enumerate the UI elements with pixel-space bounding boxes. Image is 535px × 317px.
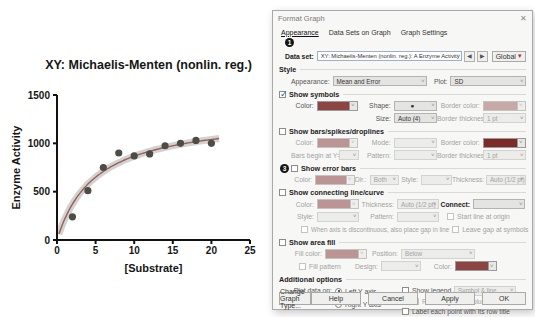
show-error-bars-header: Show error bars	[301, 164, 356, 173]
data-point	[208, 140, 215, 147]
symbol-border-thickness-label: Border thickness:	[437, 115, 483, 122]
dialog-titlebar[interactable]: Format Graph ✕	[273, 11, 532, 25]
svg-text:5: 5	[93, 245, 99, 256]
svg-text:1000: 1000	[28, 138, 51, 149]
line-thickness-label: Thickness:	[359, 201, 397, 208]
prev-dataset-button[interactable]: ◀	[464, 51, 475, 62]
style-header: Style	[279, 65, 296, 74]
ok-button[interactable]: OK	[482, 292, 526, 305]
show-bars-checkbox[interactable]	[279, 128, 286, 135]
data-point	[84, 187, 91, 194]
apply-button[interactable]: Apply	[425, 292, 475, 305]
close-icon[interactable]: ✕	[520, 14, 527, 23]
svg-text:Enzyme Activity: Enzyme Activity	[10, 125, 22, 210]
data-point	[115, 149, 122, 156]
show-area-fill-checkbox[interactable]	[279, 239, 286, 246]
line-pattern-label: Pattern:	[359, 213, 397, 220]
area-color-select	[455, 261, 497, 271]
bars-border-color-select	[483, 138, 526, 148]
fill-pattern-checkbox	[299, 263, 306, 270]
area-design-select	[381, 261, 421, 271]
error-color-select	[315, 175, 354, 185]
symbol-size-select[interactable]: Auto (4)	[394, 113, 437, 123]
symbol-border-thickness-select: 1 pt	[483, 113, 526, 123]
show-area-fill-header: Show area fill	[289, 238, 335, 247]
line-pattern-select	[397, 212, 439, 222]
format-graph-dialog: Format Graph ✕ Appearance Data Sets on G…	[272, 10, 533, 310]
show-symbols-checkbox[interactable]	[279, 91, 286, 98]
annotation-badge-2: 2	[461, 52, 463, 61]
tab-data-sets-on-graph[interactable]: Data Sets on Graph	[329, 29, 391, 36]
change-graph-type-button[interactable]: Change Graph Type...	[279, 292, 311, 305]
appearance-label: Appearance:	[291, 78, 333, 85]
area-fill-color-label: Fill color:	[291, 250, 325, 257]
error-dir-select: Both	[370, 175, 399, 185]
chevron-down-icon: ▾	[518, 52, 522, 60]
symbol-shape-select[interactable]: ●	[394, 101, 438, 111]
plot-select[interactable]: SD	[450, 76, 526, 86]
line-connect-select[interactable]	[473, 199, 525, 209]
error-dir-label: Dir.:	[355, 176, 370, 183]
show-bars-header: Show bars/spikes/droplines	[289, 127, 384, 136]
show-error-bars-checkbox[interactable]	[291, 165, 298, 172]
area-position-select: Below	[401, 249, 475, 259]
show-line-header: Show connecting line/curve	[289, 188, 384, 197]
data-point	[146, 150, 153, 157]
error-thickness-select: Auto (1/2 pt)	[486, 175, 526, 185]
bars-pattern-select	[394, 150, 437, 160]
svg-text:15: 15	[167, 245, 179, 256]
global-button[interactable]: Global ▾	[492, 51, 526, 62]
symbol-border-color-select	[483, 101, 526, 111]
symbol-color-select[interactable]	[317, 101, 358, 111]
screenshot-root: 0500100015000510152025XY: Michaelis-Ment…	[0, 0, 535, 317]
line-thickness-select: Auto (1/2 pt)	[397, 199, 439, 209]
svg-text:[Substrate]: [Substrate]	[124, 262, 182, 274]
bars-border-color-label: Border color:	[437, 139, 482, 146]
start-line-origin-label: Start line at origin	[457, 213, 513, 220]
start-line-origin-checkbox	[447, 213, 454, 220]
show-line-checkbox[interactable]	[279, 189, 286, 196]
tab-appearance[interactable]: Appearance	[281, 29, 319, 36]
label-points-label: Label each point with its row title	[412, 308, 513, 315]
error-style-select	[421, 175, 452, 185]
label-points-checkbox[interactable]	[402, 308, 409, 315]
error-color-label: Color:	[291, 176, 315, 183]
gap-in-line-label: When axis is discontinuous, also place g…	[311, 226, 452, 233]
dialog-tabs: Appearance Data Sets on Graph Graph Sett…	[273, 25, 532, 38]
help-button[interactable]: Help	[311, 292, 361, 305]
line-style-label: Style:	[291, 213, 317, 220]
svg-text:XY: Michaelis-Menten (nonlin.: XY: Michaelis-Menten (nonlin. reg.)	[45, 58, 252, 72]
data-point	[177, 140, 184, 147]
dialog-content: Data set: XY: Michaelis-Menten (nonlin. …	[273, 38, 532, 317]
tab-graph-settings[interactable]: Graph Settings	[401, 29, 448, 36]
error-thickness-label: Thickness:	[452, 176, 486, 183]
svg-text:10: 10	[129, 245, 141, 256]
confidence-band	[59, 139, 219, 235]
data-point	[161, 142, 168, 149]
annotation-badge-3: 3	[280, 164, 289, 173]
symbol-color-label: Color:	[291, 102, 317, 109]
line-style-select	[317, 212, 359, 222]
symbol-shape-label: Shape:	[358, 102, 394, 109]
data-point	[131, 152, 138, 159]
bars-pattern-label: Pattern:	[359, 152, 394, 159]
additional-options-header: Additional options	[279, 275, 342, 284]
line-color-select	[317, 199, 359, 209]
svg-text:500: 500	[33, 186, 50, 197]
next-dataset-button[interactable]: ▶	[477, 51, 488, 62]
dataset-select[interactable]: XY: Michaelis-Menten (nonlin. reg.): A E…	[317, 51, 463, 61]
data-point	[192, 137, 199, 144]
bars-color-select	[317, 138, 358, 148]
gap-at-symbols-checkbox	[452, 226, 459, 233]
gap-at-symbols-label: Leave gap at symbols	[462, 226, 531, 233]
appearance-select[interactable]: Mean and Error	[333, 76, 428, 86]
area-color-label: Color:	[421, 263, 455, 270]
line-connect-label: Connect:	[439, 201, 473, 208]
cancel-button[interactable]: Cancel	[368, 292, 418, 305]
chart-svg: 0500100015000510152025XY: Michaelis-Ment…	[0, 0, 272, 317]
svg-text:0: 0	[44, 235, 50, 246]
dataset-value: XY: Michaelis-Menten (nonlin. reg.): A E…	[321, 53, 460, 59]
bars-begin-label: Bars begin at Y=	[291, 152, 339, 159]
dataset-label: Data set:	[285, 53, 317, 60]
dialog-buttons: Change Graph Type... Help Cancel Apply O…	[273, 292, 532, 305]
